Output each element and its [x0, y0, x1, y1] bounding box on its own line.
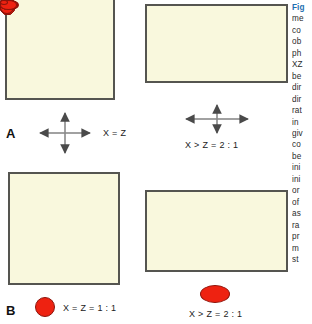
figure-root: A X = Z [0, 0, 312, 324]
caption-line: be [292, 151, 312, 162]
caption-line: as [292, 208, 312, 219]
panel-a-specimen-box [5, 0, 115, 100]
caption-line: be [292, 71, 312, 82]
caption-line: ra [292, 220, 312, 231]
panel-b-specimen-box [8, 172, 120, 285]
caption-line: Fig [292, 2, 312, 13]
caption-line: giv [292, 128, 312, 139]
caption-line: ini [292, 162, 312, 173]
caption-line: dir [292, 82, 312, 93]
caption-line: XZ [292, 59, 312, 70]
caption-line: co [292, 25, 312, 36]
caption-line: ob [292, 36, 312, 47]
caption-line: rat [292, 105, 312, 116]
caption-line: pr [292, 231, 312, 242]
caption-line: ini [292, 174, 312, 185]
caption-column: FigmecoobphXZbedirdirratingivcobeiniinio… [292, 2, 312, 302]
panel-b2-ratio-label: X > Z = 2 : 1 [189, 309, 242, 319]
caption-line: of [292, 197, 312, 208]
panel-a-ratio-label: X = Z [103, 128, 126, 138]
panel-a-strain-cross [36, 110, 94, 156]
caption-line: co [292, 139, 312, 150]
caption-line: dir [292, 94, 312, 105]
panel-a-letter: A [6, 126, 15, 141]
caption-line: me [292, 13, 312, 24]
panel-b-ratio-label: X = Z = 1 : 1 [63, 303, 116, 313]
panel-b-letter: B [6, 303, 15, 318]
caption-line: in [292, 117, 312, 128]
caption-line: or [292, 185, 312, 196]
panel-a2-ratio-label: X > Z = 2 : 1 [185, 140, 238, 150]
panel-b2-specimen-box [145, 190, 288, 272]
panel-a2-specimen-box [145, 4, 288, 83]
panel-b2-legend-particle [200, 285, 230, 303]
caption-line: st [292, 254, 312, 265]
panel-a2-strain-cross [182, 102, 252, 136]
caption-line: m [292, 243, 312, 254]
caption-line: ph [292, 48, 312, 59]
panel-b-legend-particle [35, 297, 55, 317]
